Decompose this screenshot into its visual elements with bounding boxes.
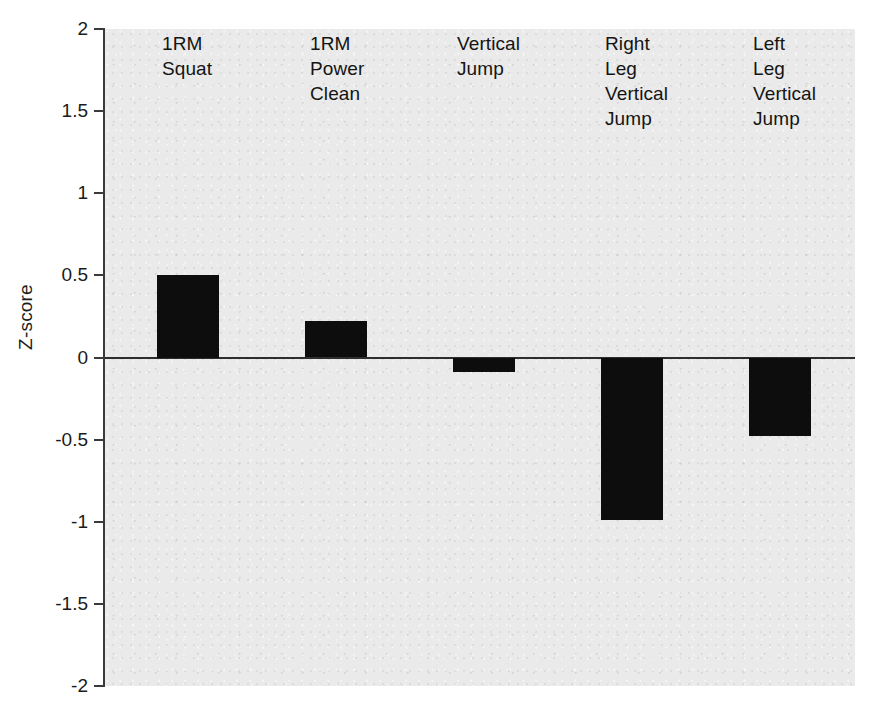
y-axis-tick [94, 110, 105, 112]
y-axis-tick [94, 274, 105, 276]
category-label: Right Leg Vertical Jump [605, 31, 668, 131]
y-axis-tick [94, 357, 105, 359]
y-axis-tick-label: -2 [0, 675, 88, 697]
y-axis-tick-label: -0.5 [0, 429, 88, 451]
y-axis-tick-labels: 21.510.50-0.5-1-1.5-2 [0, 0, 88, 710]
y-axis-tick [94, 603, 105, 605]
y-axis-tick [94, 192, 105, 194]
category-label: Vertical Jump [457, 31, 520, 81]
plot-area [105, 29, 855, 686]
y-axis-tick-label: 0 [0, 347, 88, 369]
bar [157, 275, 219, 357]
y-axis-tick [94, 439, 105, 441]
bar-chart-figure: Z-score 21.510.50-0.5-1-1.5-2 1RM Squat1… [0, 0, 880, 710]
y-axis-tick-label: 1.5 [0, 100, 88, 122]
category-label: Left Leg Vertical Jump [753, 31, 816, 131]
y-axis-tick-label: 0.5 [0, 264, 88, 286]
bar [453, 358, 515, 373]
y-axis-tick-label: -1.5 [0, 593, 88, 615]
category-label: 1RM Squat [162, 31, 212, 81]
y-axis-tick [94, 521, 105, 523]
y-axis-tick-label: 1 [0, 182, 88, 204]
y-axis-tick [94, 28, 105, 30]
y-axis-tick-label: -1 [0, 511, 88, 533]
category-label: 1RM Power Clean [310, 31, 364, 106]
bar [749, 358, 811, 437]
y-axis-tick [94, 685, 105, 687]
bar [601, 358, 663, 521]
y-axis-tick-label: 2 [0, 18, 88, 40]
bar [305, 321, 367, 357]
